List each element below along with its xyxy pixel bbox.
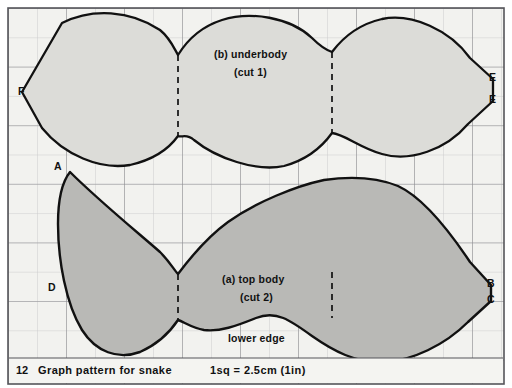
point-marker-e-lower: E bbox=[489, 93, 496, 105]
figure-caption: Graph pattern for snake bbox=[38, 364, 172, 376]
point-marker-c: C bbox=[487, 293, 495, 305]
underbody-subtitle: (cut 1) bbox=[234, 66, 267, 78]
point-marker-f: F bbox=[18, 85, 25, 97]
lower-edge-label: lower edge bbox=[228, 332, 285, 344]
point-marker-b: B bbox=[487, 277, 495, 289]
top-body-subtitle: (cut 2) bbox=[240, 291, 273, 303]
point-marker-e-upper: E bbox=[489, 71, 496, 83]
figure-number: 12 bbox=[16, 364, 28, 376]
point-marker-a: A bbox=[54, 160, 62, 172]
point-marker-d: D bbox=[48, 281, 56, 293]
top-body-title: (a) top body bbox=[222, 273, 284, 285]
scale-note: 1sq = 2.5cm (1in) bbox=[210, 364, 306, 376]
figure-page: (b) underbody (cut 1) (a) top body (cut … bbox=[0, 0, 512, 388]
underbody-shape bbox=[22, 13, 493, 167]
underbody-title: (b) underbody bbox=[214, 48, 287, 60]
